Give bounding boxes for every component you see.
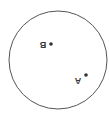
point-b bbox=[49, 42, 53, 46]
diagram-canvas: B A bbox=[0, 0, 109, 115]
point-a bbox=[84, 73, 88, 77]
label-a: A bbox=[74, 76, 81, 86]
label-b: B bbox=[39, 40, 46, 50]
circle bbox=[9, 11, 107, 109]
